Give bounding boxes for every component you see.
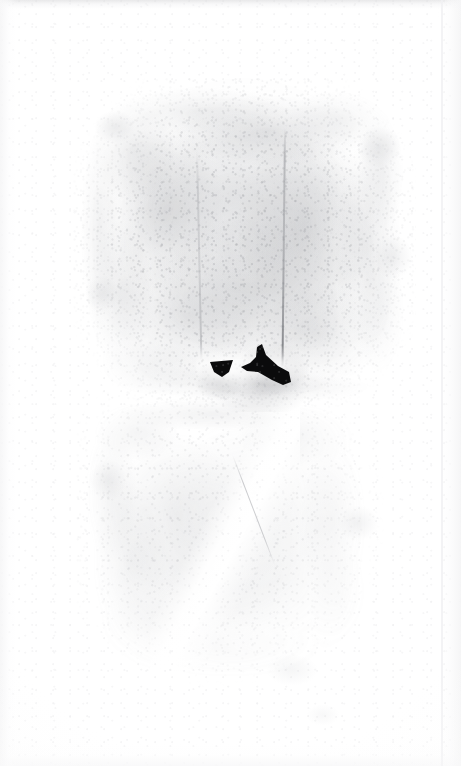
scanned-sheet-viewport: Heavily faded scan of an aged paper shee… <box>0 0 461 766</box>
paper-background <box>0 0 461 766</box>
